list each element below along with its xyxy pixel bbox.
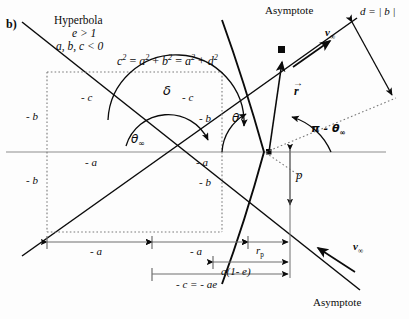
- pi-minus-theta-infinity-label: π - θ∞: [311, 123, 346, 137]
- asymptote-label-bottom: Asymptote: [313, 297, 361, 309]
- v-infinity-bottom-subscript: ∞: [358, 247, 363, 255]
- orbit-point-marker: [278, 46, 285, 53]
- r-vector-label: → r: [294, 85, 299, 98]
- eq-exp-1: 2: [122, 53, 126, 62]
- dim-label-a1e: a(1- e): [221, 266, 251, 278]
- neg-b-label-upper-right: - b: [199, 113, 211, 125]
- pi-minus-theta-symbol: π - θ: [311, 122, 339, 135]
- dim-label-c-ae: - c = - ae: [176, 279, 217, 291]
- figure-title-line-2: e > 1: [72, 27, 96, 39]
- v-infinity-arrow-top: [293, 41, 330, 67]
- rp-subscript: p: [260, 251, 264, 259]
- dim-label-a-left: - a: [90, 246, 102, 258]
- neg-a-label-right: - a: [196, 157, 208, 169]
- neg-a-label-left: - a: [85, 157, 97, 169]
- neg-c-label-left: - c: [81, 92, 92, 104]
- v-infinity-label-top: v∞: [325, 27, 335, 42]
- pi-minus-theta-subscript: ∞: [339, 128, 345, 137]
- panel-letter: b): [6, 18, 17, 31]
- eq-exp-2: 2: [145, 53, 149, 62]
- v-infinity-arrow-bottom: [318, 248, 355, 272]
- eq-equals-1: =: [129, 54, 136, 68]
- eq-exp-3: 2: [168, 53, 172, 62]
- neg-b-label-lower-left: - b: [26, 175, 38, 187]
- eq-plus-1: +: [152, 54, 159, 68]
- theta-label: θ: [232, 112, 239, 125]
- theta-infinity-subscript: ∞: [138, 139, 145, 148]
- r-vector-arrow-accent: →: [293, 78, 303, 89]
- figure-title-line-3: a, b, c < 0: [56, 40, 103, 52]
- eq-equals-2: =: [175, 54, 182, 68]
- dim-label-a-right: - a: [190, 246, 202, 258]
- impact-parameter-line: [352, 22, 392, 95]
- theta-infinity-label: θ∞: [131, 133, 145, 149]
- eq-exp-4: 2: [191, 53, 195, 62]
- semi-latus-rectum-label: p: [296, 168, 303, 182]
- eq-plus-2: +: [198, 54, 205, 68]
- delta-label: δ: [163, 84, 171, 98]
- impact-parameter-label: d = | b |: [360, 6, 395, 18]
- v-infinity-top-subscript: ∞: [330, 33, 335, 41]
- neg-b-label-lower-right: - b: [199, 177, 211, 189]
- eq-exp-5: 2: [214, 53, 218, 62]
- dotted-focus-lower: [266, 153, 300, 176]
- hyperbola-geometry-figure: b) Hyperbola e > 1 a, b, c < 0 c2 = a2 +…: [0, 0, 409, 319]
- neg-b-label-upper-left: - b: [26, 111, 38, 123]
- asymptote-label-top: Asymptote: [265, 5, 313, 17]
- dim-label-rp: rp: [256, 245, 264, 260]
- neg-c-label-right: - c: [182, 92, 193, 104]
- figure-title-line-1: Hyperbola: [54, 14, 103, 26]
- conic-equation: c2 = a2 + b2 = a2 + d2: [117, 54, 218, 68]
- v-infinity-label-bottom: v∞: [353, 241, 363, 256]
